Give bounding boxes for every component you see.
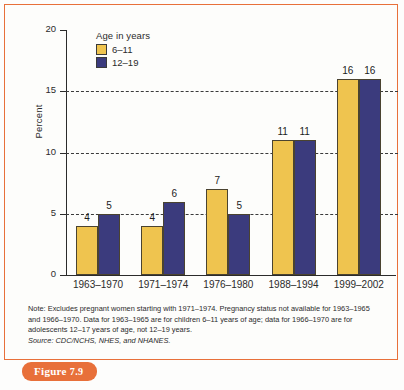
y-axis-tick-label: 5 [51, 207, 56, 218]
bar-value-label: 4 [76, 212, 98, 223]
bar-value-label: 11 [272, 126, 294, 137]
x-axis-category-label: 1971–1974 [130, 279, 196, 290]
x-axis-line [60, 275, 396, 276]
legend-swatch-6-11 [96, 44, 107, 55]
figure-caption-number: 7.9 [70, 366, 83, 377]
x-axis-category-label: 1999–2002 [326, 279, 392, 290]
bar-value-label: 5 [98, 200, 120, 211]
figure-caption-prefix: Figure [34, 365, 67, 377]
bar [98, 214, 120, 275]
bar [272, 140, 294, 275]
legend-label-6-11: 6–11 [112, 44, 132, 55]
bar [163, 202, 185, 276]
bar-value-label: 16 [359, 65, 381, 76]
bar-value-label: 5 [228, 200, 250, 211]
y-axis-title: Percent [33, 82, 44, 162]
source-text: Source: CDC/NCHS, NHES, and NHANES. [28, 336, 384, 347]
bar [337, 79, 359, 275]
legend-label-12-19: 12–19 [112, 57, 138, 68]
bar [76, 226, 98, 275]
bar-value-label: 7 [206, 175, 228, 186]
y-axis-tick-label: 20 [45, 23, 56, 34]
bar [228, 214, 250, 275]
bar-value-label: 16 [337, 65, 359, 76]
x-axis-category-label: 1976–1980 [195, 279, 261, 290]
bar [359, 79, 381, 275]
figure-caption-badge: Figure 7.9 [22, 362, 97, 381]
chart-plot-area: Percent 05101520 45467511111616 1963–197… [4, 4, 398, 294]
x-axis-category-label: 1988–1994 [261, 279, 327, 290]
bar-value-label: 4 [141, 212, 163, 223]
y-axis-tick-label: 15 [45, 84, 56, 95]
figure-notes: Note: Excludes pregnant women starting w… [28, 304, 384, 346]
legend-item-6-11: 6–11 [96, 44, 150, 55]
x-axis-category-label: 1963–1970 [65, 279, 131, 290]
legend-item-12-19: 12–19 [96, 57, 150, 68]
bar [141, 226, 163, 275]
legend-title: Age in years [96, 30, 150, 41]
y-axis-tick-label: 0 [51, 268, 56, 279]
bar-value-label: 11 [294, 126, 316, 137]
chart-legend: Age in years 6–11 12–19 [96, 30, 150, 70]
y-axis-tick: 0 [60, 275, 66, 276]
note-text: Note: Excludes pregnant women starting w… [28, 304, 384, 336]
bar-value-label: 6 [163, 188, 185, 199]
figure-container: Percent 05101520 45467511111616 1963–197… [0, 0, 404, 390]
legend-swatch-12-19 [96, 57, 107, 68]
bar [294, 140, 316, 275]
y-axis-tick-label: 10 [45, 146, 56, 157]
bar [206, 189, 228, 275]
